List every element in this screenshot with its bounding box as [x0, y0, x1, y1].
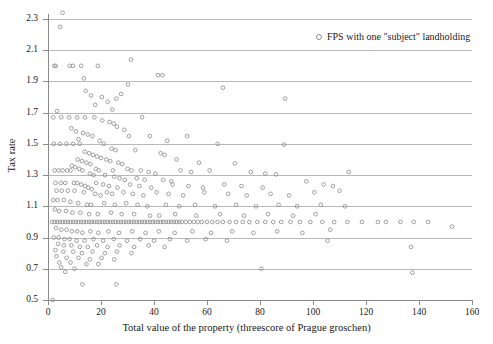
x-tick-mark — [313, 300, 314, 305]
y-tick-mark — [43, 238, 49, 239]
y-tick-label: 1.7 — [0, 108, 38, 118]
x-axis-title: Total value of the property (threescore … — [0, 322, 493, 333]
x-tick-label: 60 — [187, 307, 227, 317]
y-tick-label: 0.5 — [0, 295, 38, 305]
x-tick-mark — [472, 300, 473, 305]
y-tick-label: 0.9 — [0, 233, 38, 243]
gridline — [48, 238, 472, 239]
x-tick-mark — [48, 300, 49, 305]
data-point — [61, 11, 65, 15]
plot-area — [48, 19, 472, 300]
x-tick-mark — [154, 300, 155, 305]
y-tick-label: 0.7 — [0, 264, 38, 274]
x-tick-label: 120 — [346, 307, 386, 317]
x-tick-mark — [207, 300, 208, 305]
open-circle-marker-icon — [316, 34, 322, 40]
y-tick-label: 1.9 — [0, 76, 38, 86]
y-tick-mark — [43, 269, 49, 270]
x-tick-label: 80 — [240, 307, 280, 317]
x-tick-label: 100 — [293, 307, 333, 317]
x-tick-mark — [260, 300, 261, 305]
gridline — [48, 19, 472, 20]
x-tick-label: 40 — [134, 307, 174, 317]
gridline — [48, 269, 472, 270]
legend-entry-label: FPS with one "subject" landholding — [327, 31, 470, 42]
y-tick-mark — [43, 19, 49, 20]
y-tick-label: 2.1 — [0, 45, 38, 55]
y-tick-label: 1.1 — [0, 201, 38, 211]
x-tick-label: 0 — [28, 307, 68, 317]
gridline — [48, 206, 472, 207]
x-tick-mark — [366, 300, 367, 305]
y-tick-mark — [43, 113, 49, 114]
scatter-chart: Tax rate Total value of the property (th… — [0, 0, 493, 344]
y-tick-mark — [43, 81, 49, 82]
gridline — [48, 81, 472, 82]
y-tick-mark — [43, 175, 49, 176]
x-tick-mark — [101, 300, 102, 305]
y-tick-label: 1.5 — [0, 139, 38, 149]
y-axis-title: Tax rate — [6, 121, 17, 191]
x-tick-mark — [419, 300, 420, 305]
gridline — [48, 144, 472, 145]
gridline — [48, 175, 472, 176]
y-tick-mark — [43, 144, 49, 145]
gridline — [48, 50, 472, 51]
legend: FPS with one "subject" landholding — [316, 31, 470, 42]
x-axis-line — [43, 300, 473, 301]
gridline — [48, 113, 472, 114]
x-tick-label: 160 — [452, 307, 492, 317]
x-tick-label: 20 — [81, 307, 121, 317]
y-axis-line — [48, 14, 49, 305]
y-tick-label: 1.3 — [0, 170, 38, 180]
y-tick-mark — [43, 50, 49, 51]
x-tick-label: 140 — [399, 307, 439, 317]
y-tick-mark — [43, 206, 49, 207]
y-tick-label: 2.3 — [0, 14, 38, 24]
